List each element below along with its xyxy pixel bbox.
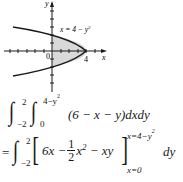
- antiderivative: 6x − 12 x2 − xy: [42, 138, 113, 163]
- outer-upper-limit-2: 2: [26, 136, 31, 146]
- outer-upper-limit: 2: [22, 97, 27, 107]
- dy-differential: dy: [163, 144, 175, 160]
- eval-upper-limit: x=4−y2: [127, 130, 155, 141]
- curve-label: x = 4 − y2: [59, 25, 91, 34]
- y-axis-label: y: [44, 0, 49, 8]
- outer-integral-sign: ∫: [9, 99, 14, 125]
- vertex-label: 4: [84, 55, 88, 64]
- inner-upper-limit: 4−y2: [43, 95, 60, 106]
- eval-lower-limit: x=0: [127, 165, 142, 175]
- inner-integral-sign: ∫: [31, 99, 36, 125]
- one-half-fraction: 12: [67, 138, 75, 163]
- evaluated-integral-equation: = ∫ 2 −2 [ 6x − 12 x2 − xy ] x=4−y2 x=0 …: [0, 132, 183, 180]
- inner-lower-limit: 0: [40, 119, 45, 129]
- parabola-region-graph: y x 0 4 x = 4 − y2: [0, 0, 110, 95]
- term-x-squared: x2: [76, 142, 86, 159]
- double-integral-equation: ∫ 2 −2 ∫ 4−y2 0 (6 − x − y)dxdy: [8, 97, 183, 131]
- term-6x: 6x −: [42, 143, 66, 159]
- left-bracket: [: [32, 132, 39, 166]
- outer-lower-limit-2: −2: [21, 158, 31, 168]
- outer-lower-limit: −2: [17, 119, 27, 129]
- x-axis-label: x: [101, 53, 106, 62]
- origin-label: 0: [46, 52, 50, 61]
- integrand: (6 − x − y)dxdy: [68, 107, 150, 123]
- outer-integral-sign-2: ∫: [13, 138, 18, 164]
- term-xy: − xy: [87, 143, 114, 159]
- y-axis-arrow-icon: [50, 1, 54, 7]
- equals-sign: =: [2, 145, 9, 161]
